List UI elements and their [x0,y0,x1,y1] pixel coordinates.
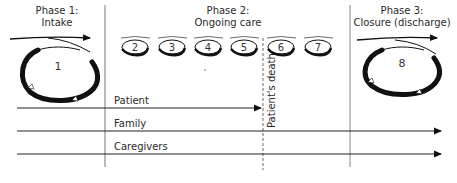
phase-2-header: Phase 2: Ongoing care [195,5,262,28]
phase-3-header: Phase 3: Closure (discharge) [353,5,450,28]
svg-text:5: 5 [241,42,247,53]
ongoing-cycle-icon: 2 [121,37,150,56]
ongoing-cycle-icon: 7 [304,37,333,56]
svg-text:3: 3 [169,42,175,53]
svg-text:2: 2 [132,42,138,53]
phase-1-header: Phase 1: Intake [36,5,79,28]
track-label: Patient [114,95,149,106]
track-family: Family [17,118,441,131]
intake-cycle-icon: 1 [10,37,98,101]
track-label: Caregivers [114,141,168,152]
ongoing-cycle-icon: 4 [194,37,223,56]
phase-2-title: Phase 2: [207,5,250,16]
svg-text:4: 4 [205,42,211,53]
care-phases-diagram: Phase 1: Intake Phase 2: Ongoing care Ph… [0,0,457,183]
svg-text:7: 7 [315,42,321,53]
phase-2-subtitle: Ongoing care [195,17,262,28]
ongoing-cycle-icon: 3 [158,37,187,56]
phase-1-subtitle: Intake [42,17,73,28]
patient-death-label: Patient's death [266,53,277,128]
ongoing-cycle-icon: 6 [267,37,296,56]
cycle-number: 8 [399,57,406,70]
stray-dot [204,69,206,71]
ongoing-cycle-icon: 5 [230,37,259,56]
closure-cycle-icon: 8 [357,37,440,94]
cycle-number: 1 [55,60,62,73]
phase-3-subtitle: Closure (discharge) [353,17,450,28]
svg-text:6: 6 [278,42,284,53]
track-label: Family [114,118,146,129]
track-caregivers: Caregivers [17,141,441,154]
phase-1-title: Phase 1: [36,5,79,16]
phase-3-title: Phase 3: [381,5,424,16]
